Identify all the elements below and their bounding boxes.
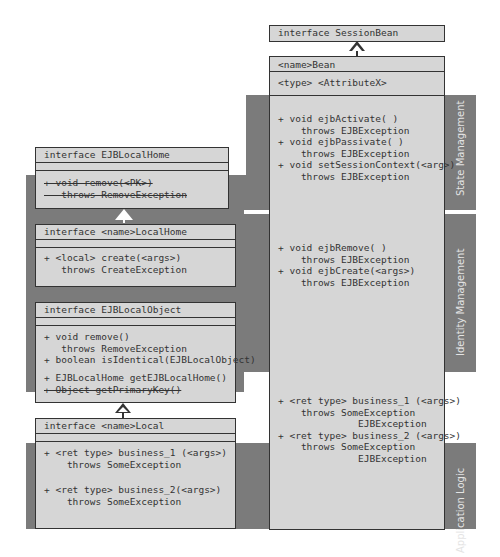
ejb-local-object-struck-method: + Object getPrimaryKey() [36,383,235,396]
local-home-inheritance-line [123,219,125,223]
ejb-local-object-attrs [36,318,235,326]
local-title: interface <name>Local [36,419,235,434]
bean-class: <name>Bean <type> <AttributeX> + void ej… [269,56,445,530]
local-attrs [36,434,235,442]
application-logic-label: Application Logic [455,468,466,553]
bean-inheritance-arrow-fill [352,45,362,51]
local-method-2: + <ret type> business_2(<args>) throws S… [36,470,235,507]
bean-identity-methods: + void ejbRemove( ) throws EJBException … [270,213,444,392]
identity-management-label: Identity Management [455,249,466,356]
ejb-local-object-methods: + void remove() throws RemoveException +… [36,326,235,366]
ejb-local-home-interface: interface EJBLocalHome + void remove(<PK… [35,147,229,209]
local-interface: interface <name>Local + <ret type> busin… [35,418,236,529]
local-home-attrs [36,240,235,248]
local-home-interface: interface <name>LocalHome + <local> crea… [35,224,236,287]
ejb-local-object-interface: interface EJBLocalObject + void remove()… [35,302,236,403]
bean-state-methods: + void ejbActivate( ) throws EJBExceptio… [270,96,444,213]
local-inheritance-arrow-fill [118,407,128,412]
session-bean-interface: interface SessionBean [269,25,445,42]
bean-business-methods: + <ret type> business_1 (<args>) throws … [270,392,444,464]
ejb-local-home-attrs [36,163,228,171]
ejb-local-home-methods: + void remove(<PK>) throws RemoveExcepti… [36,171,228,200]
ejb-local-home-title: interface EJBLocalHome [36,148,228,163]
ejb-local-object-title: interface EJBLocalObject [36,303,235,318]
session-bean-title: interface SessionBean [270,26,444,39]
local-home-title: interface <name>LocalHome [36,225,235,240]
local-home-methods: + <local> create(<args>) throws CreateEx… [36,248,235,275]
bean-attribute: <type> <AttributeX> [270,72,444,96]
local-method-1: + <ret type> business_1 (<args>) throws … [36,442,235,470]
ejb-local-object-methods2: + EJBLocalHome getEJBLocalHome() [36,366,235,384]
state-management-label: State Management [455,100,466,196]
bean-name: <name>Bean [270,57,444,72]
